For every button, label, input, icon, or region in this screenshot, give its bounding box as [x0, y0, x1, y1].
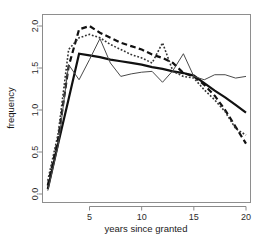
x-axis-title: years since granted — [105, 223, 188, 234]
x-tick-label: 5 — [87, 212, 92, 222]
chart-container: 0.00.51.01.52.0 5101520 years since gran… — [0, 0, 266, 242]
x-tick-label: 20 — [241, 212, 251, 222]
y-tick-label: 1.5 — [30, 62, 40, 75]
x-tick-label: 10 — [137, 212, 147, 222]
y-tick-label: 0.5 — [30, 146, 40, 159]
frequency-vs-years-line-chart: 0.00.51.01.52.0 5101520 years since gran… — [0, 0, 266, 242]
chart-background — [0, 0, 266, 242]
x-tick-label: 15 — [189, 212, 199, 222]
y-tick-label: 1.0 — [30, 104, 40, 117]
y-tick-label: 2.0 — [30, 20, 40, 33]
y-tick-label: 0.0 — [30, 188, 40, 201]
y-axis-title: frequency — [5, 87, 16, 129]
